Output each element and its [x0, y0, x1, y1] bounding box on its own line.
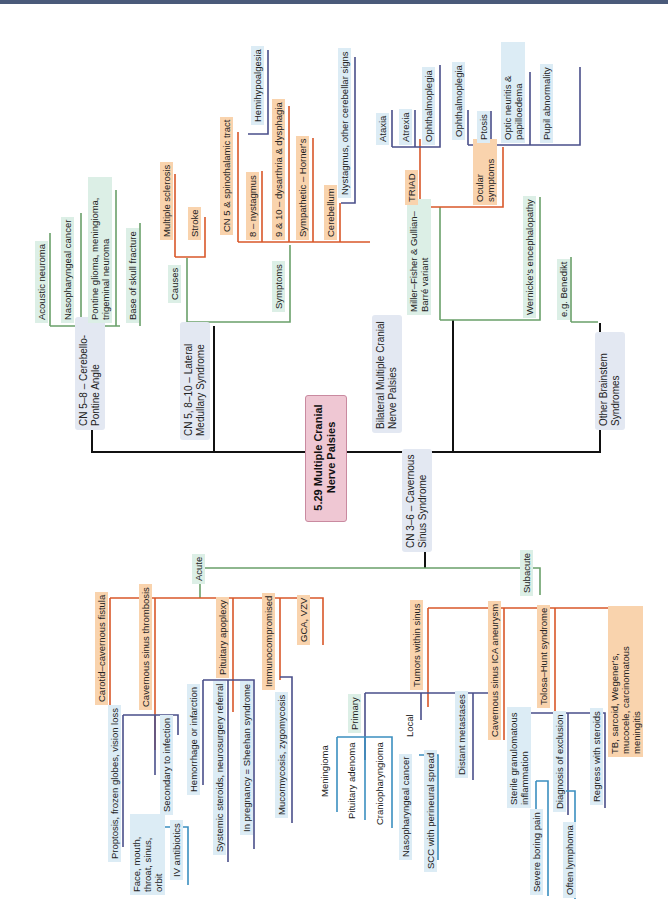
acute-detail: Mucormycosis, zygomycosis — [275, 692, 288, 818]
tumor-item: Nasopharyngeal cancer — [399, 754, 412, 860]
central-node-title: 5.29 Multiple Cranial Nerve Palsies — [305, 395, 345, 520]
tumor-item: Distant metastases — [455, 691, 468, 778]
subacute-item: Tumors within sinus — [410, 600, 423, 690]
tolosa-detail: Sterile granulomatous inflammation — [507, 707, 531, 808]
symptom-item: 9 & 10 – dysarthria & dysphagia — [272, 99, 285, 240]
acute-detail: Hemorrhage or infarction — [187, 684, 200, 795]
local-label: Local — [403, 711, 416, 740]
cpa-item: Pontine glioma, meningioma, trigeminal n… — [88, 177, 112, 323]
triad-label: TRIAD — [405, 171, 418, 206]
cpa-item: Acoustic neuroma — [35, 241, 48, 323]
wernicke-label: Wernicke's encephalopathy — [523, 196, 536, 318]
tolosa-subdetail: Severe boring pain — [530, 809, 543, 895]
tumor-item: Meningioma — [318, 742, 331, 800]
acute-item: Cavernous sinus thrombosis — [139, 584, 152, 710]
triad-item: Atrexia — [399, 109, 412, 145]
cpa-item: Base of skull fracture — [126, 228, 139, 323]
triad-item: Ophthalmoplegia — [422, 67, 435, 145]
branch-bilateral-label: Bilateral Multiple Cranial Nerve Palsies — [372, 315, 402, 433]
symptom-item: Sympathetic – Horner's — [296, 136, 309, 240]
tumor-item: SCC with perineural spread — [424, 750, 437, 872]
ocular-item: Ophthalmoplegia — [452, 62, 465, 140]
ocular-item: Optic neuritis & papilloedema — [501, 42, 525, 143]
cause-item: Stroke — [188, 207, 201, 240]
tolosa-subdetail: Often lymphoma — [563, 822, 576, 898]
symptom-item: Cerebellum — [324, 185, 337, 240]
symptom-detail: Hemihypoalgesia — [251, 46, 264, 125]
ocular-item: Pupil abnormality — [540, 64, 553, 143]
branch-lateral-medullary-label: CN 5, 8–10 – Lateral Medullary Syndrome — [180, 322, 210, 440]
acute-item: Pituitary apoplexy — [216, 597, 229, 678]
subacute-item: TB, sarcoid, Wegener's, mucocele, carcin… — [608, 606, 643, 757]
acute-detail: Proptosis, frozen globes, vision loss — [108, 705, 121, 862]
acute-item: GCA, VZV — [297, 595, 310, 645]
symptom-item: 8 – nystagmus — [246, 172, 259, 240]
acute-detail: In pregnancy = Sheehan syndrome — [240, 681, 253, 835]
tolosa-detail: Diagnosis of exclusion — [553, 711, 566, 812]
subacute-item: Cavernous sinus ICA aneurysm — [488, 601, 501, 740]
subacute-item: Tolosa–Hunt syndrome — [537, 605, 550, 708]
acute-detail: Systemic steroids, neurosurgery referral — [213, 681, 226, 855]
miller-fisher-label: Miller–Fisher & Gullian–Barré variant — [407, 199, 431, 315]
causes-label: Causes — [168, 265, 181, 303]
acute-item: Immunocompromised — [262, 593, 275, 690]
symptom-detail: Nystagmus, other cerebellar signs — [338, 48, 351, 198]
subacute-label: Subacute — [520, 550, 533, 596]
acute-item: Carotid–cavernous fistula — [95, 592, 108, 705]
tumor-item: Pituitary adenoma — [345, 739, 358, 822]
other-item: e.g. Benedikt — [557, 259, 570, 320]
ocular-item: Ptosis — [477, 111, 490, 143]
ocular-label: Ocular symptoms — [473, 139, 497, 205]
cause-item: Multiple sclerosis — [160, 162, 173, 240]
acute-subdetail: IV antibiotics — [170, 820, 183, 880]
acute-subdetail: Face, mouth, throat, sinus, orbit — [130, 814, 165, 895]
branch-cavernous-label: CN 3–6 – Cavernous Sinus Syndrome — [402, 449, 432, 552]
tumor-item: Craniopharyngioma — [373, 739, 386, 828]
triad-item: Ataxia — [376, 113, 389, 145]
acute-detail: Secondary to infection — [160, 715, 173, 815]
acute-label: Acute — [192, 554, 205, 584]
symptom-item: CN 5 & spinothalamic tract — [220, 117, 233, 235]
symptoms-label: Symptoms — [272, 261, 285, 312]
primary-label: Primary — [348, 694, 361, 733]
branch-cpa-label: CN 5–8 – Cerebello-Pontine Angle — [75, 317, 105, 430]
tolosa-detail: Regress with steroids — [590, 708, 603, 805]
branch-other-label: Other Brainstem Syndromes — [595, 332, 625, 430]
cpa-item: Nasopharyngeal cancer — [61, 217, 74, 323]
